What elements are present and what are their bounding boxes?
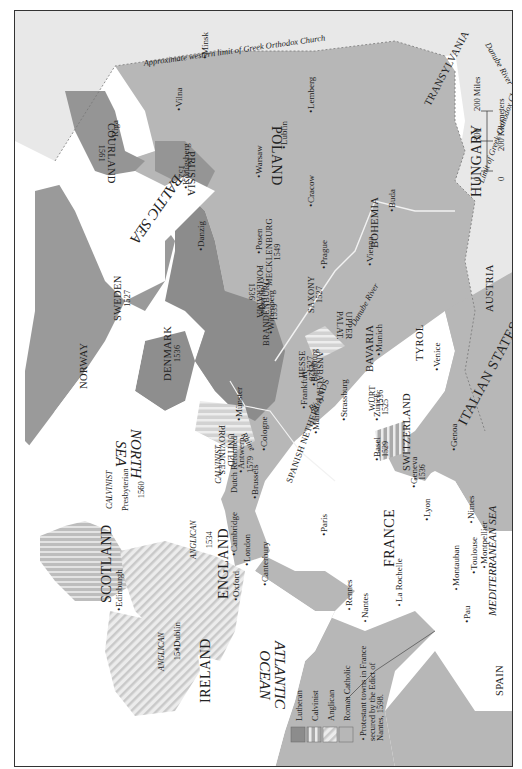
region-upper-palat: UPPERPALAT. [336,311,353,340]
city-rennes: Rennes [345,580,354,611]
faith-note-scotland: CALVINIST Presbyterian 1560 [99,469,147,512]
legend-anglican: Anglican [327,690,336,721]
region-spain: SPAIN [495,665,506,696]
city-prague: Prague [320,240,329,269]
faith-church: Presbyterian [120,469,130,512]
city-cologne: Cologne [260,416,269,451]
city-year: 1536 [419,456,427,488]
region-saxony: SAXONY1527 [307,276,324,313]
legend-protestant-towns: Protestant towns in France secured by th… [359,646,385,741]
city-la-rochelle: La Rochelle [395,558,404,607]
city-vilna: Vilna [175,88,184,112]
city-pau: Pau [463,605,472,623]
region-sweden: SWEDEN1527 [113,275,132,321]
city-nantes: Nantes [361,593,370,623]
city-toulouse: Toulouse [470,537,479,574]
city-year: 1529 [382,437,390,461]
atlantic-ocean-label: ATLANTIC OCEAN [257,641,287,709]
scale-tick-0-km: 0 [497,177,506,181]
region-year: 1549 [274,218,282,286]
atlantic-line1: ATLANTIC [272,641,288,709]
city-geneva: Geneva1536 [410,456,427,488]
faith-note-netherlands: CALVINIST Dutch Reformed 1579 [208,436,256,493]
region-scotland: SCOTLAND [100,524,114,603]
city-warsaw: Warsaw [255,145,264,178]
scale-tick-0: 0 [473,177,482,181]
region-name-line2: PALAT. [336,311,346,340]
legend-lutheran: Lutheran [295,690,304,721]
atlantic-line2: OCEAN [257,650,273,699]
city-dublin: Dublin [173,622,182,651]
faith-year: 1560 [136,481,146,498]
city-basel: Basel1529 [373,437,390,461]
region-name-line1: UPPER [344,312,354,340]
city-lyon: Lyon [423,498,432,521]
scale-tick-100: 100 [473,128,482,141]
city-konigsberg: Königsberg [182,143,191,189]
region-year: 1527 [316,276,324,313]
city-brussels: Brussels [251,464,260,499]
city-danzig: Danzig [197,221,206,251]
region-name: DENMARK [162,326,173,381]
region-tyrol: TYROL [415,325,426,362]
city-strassburg: Strassburg [340,379,349,421]
region-austria: AUSTRIA [485,264,496,312]
city-paris: Paris [320,514,329,536]
faith-year: 1534 [204,531,214,548]
faith-name: CALVINIST [105,471,114,509]
city-munster: Münster [235,387,244,421]
region-mecklenburg: MECKLENBURG1549 [265,218,282,286]
faith-name: CALVINIST [214,445,223,483]
region-year: 1536 [174,326,182,381]
region-norway: NORWAY [79,343,90,389]
faith-name: ANGLICAN [189,520,198,559]
scale-km-label: 200 Kilometers [497,98,506,151]
city-montauban: Montauban [452,545,461,591]
region-year: 1527 [124,275,132,321]
city-london: London [243,534,252,566]
city-cracow: Cracow [307,175,316,207]
legend-roman-catholic: Roman Catholic [343,666,352,721]
region-denmark: DENMARK1536 [163,326,182,381]
city-lemberg: Lemberg [307,77,316,113]
map-frame: Approximate western limit of Greek Ortho… [14,10,513,767]
city-bamburg: Bamburg [310,349,319,386]
region-ireland: IRELAND [199,638,213,703]
legend-note-line3: Nantes, 1598. [375,694,385,741]
region-year: 1561 [98,123,106,184]
legend-calvinist: Calvinist [311,690,320,721]
city-zurich: Zurich1525 [373,393,390,421]
faith-name: ANGLICAN [157,632,166,671]
city-riga: Riga [111,120,120,141]
city-lublin: Lublin [280,121,289,149]
city-edinburgh: Edinburgh [115,569,124,611]
city-genoa: Genoa [450,423,459,451]
scale-miles-label: 200 Miles [473,77,482,111]
city-posen: Posen [255,228,264,254]
city-nimes: Nimes [467,496,476,524]
city-venice: Venice [433,342,442,371]
city-frankfurt: Frankfurt [300,371,309,409]
city-minsk: Minsk [201,32,210,59]
city-buda: Buda [388,189,397,212]
city-antwerp: Antwerp [237,437,246,473]
city-montpellier: Montpellier [480,522,489,569]
north-sea-line2: SEA [113,441,129,467]
city-munich: Munich [375,324,384,356]
city-mainz: Mainz [312,407,321,434]
city-year: 1525 [382,393,390,421]
city-wittenberg: Wittenberg [267,290,276,334]
city-vienna: Vienna [366,237,375,266]
region-name: SWEDEN [112,275,123,321]
city-canterbury: Canterbury [261,541,270,586]
faith-note-england: ANGLICAN 1534 [183,520,215,559]
city-oxford: Oxford [232,571,241,601]
city-cambridge: Cambridge [230,512,239,556]
